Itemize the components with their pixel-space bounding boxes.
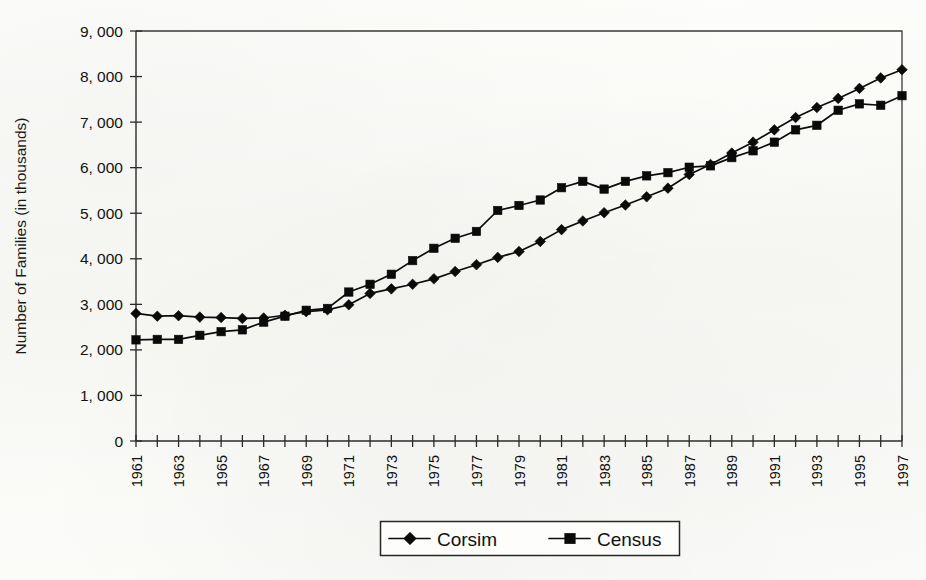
series-line-census (136, 96, 902, 340)
data-point-diamond (875, 73, 886, 84)
chart-screenshot: 01, 0002, 0003, 0004, 0005, 0006, 0007, … (0, 0, 926, 580)
data-point-square (451, 234, 459, 242)
data-point-square (749, 147, 757, 155)
data-point-square (494, 206, 502, 214)
data-point-diamond (578, 216, 589, 227)
x-tick-label: 1963 (171, 455, 187, 487)
data-point-square (621, 177, 629, 185)
data-point-square (898, 91, 906, 99)
x-tick-label: 1975 (426, 455, 442, 487)
data-point-diamond (216, 312, 227, 323)
data-point-diamond (790, 112, 801, 123)
data-point-square (685, 163, 693, 171)
x-tick-label: 1977 (469, 455, 485, 487)
data-point-diamond (833, 93, 844, 104)
data-point-diamond (492, 252, 503, 263)
data-point-diamond (620, 200, 631, 211)
data-point-square (855, 100, 863, 108)
data-point-square (345, 288, 353, 296)
data-point-diamond (769, 125, 780, 136)
x-tick-label: 1989 (724, 455, 740, 487)
data-point-square (877, 101, 885, 109)
legend-label-census: Census (597, 529, 661, 550)
y-tick-label: 0 (114, 433, 123, 450)
y-tick-label: 9, 000 (80, 23, 123, 40)
data-point-square (536, 196, 544, 204)
data-point-square (196, 331, 204, 339)
y-tick-label: 1, 000 (80, 387, 123, 404)
data-point-square (408, 256, 416, 264)
series-census (132, 91, 906, 344)
data-point-square (565, 533, 575, 543)
data-point-diamond (514, 246, 525, 257)
data-point-diamond (131, 308, 142, 319)
data-series-group (131, 64, 908, 344)
data-point-diamond (812, 102, 823, 113)
x-tick-label: 1997 (895, 455, 911, 487)
data-point-diamond (365, 288, 376, 299)
data-point-square (387, 270, 395, 278)
data-point-square (600, 185, 608, 193)
data-point-diamond (173, 310, 184, 321)
data-point-square (323, 304, 331, 312)
y-tick-label: 6, 000 (80, 159, 123, 176)
x-tick-label: 1985 (639, 455, 655, 487)
data-point-diamond (535, 236, 546, 247)
data-point-diamond (152, 311, 163, 322)
data-point-square (791, 126, 799, 134)
data-point-diamond (599, 207, 610, 218)
data-point-square (813, 121, 821, 129)
chart-legend: CorsimCensus (381, 522, 680, 556)
data-point-square (153, 335, 161, 343)
y-axis: 01, 0002, 0003, 0004, 0005, 0006, 0007, … (80, 23, 142, 450)
data-point-diamond (237, 313, 248, 324)
data-point-diamond (471, 259, 482, 270)
x-tick-label: 1993 (809, 455, 825, 487)
data-point-square (430, 244, 438, 252)
data-point-diamond (407, 279, 418, 290)
data-point-diamond (748, 137, 759, 148)
data-point-square (217, 327, 225, 335)
frame-top-right (136, 31, 902, 441)
y-tick-label: 8, 000 (80, 68, 123, 85)
x-axis: 1961196319651967196919711973197519771979… (129, 435, 911, 487)
x-tick-label: 1965 (214, 455, 230, 487)
y-tick-label: 7, 000 (80, 114, 123, 131)
data-point-square (174, 335, 182, 343)
data-point-square (770, 138, 778, 146)
families-line-chart: 01, 0002, 0003, 0004, 0005, 0006, 0007, … (0, 0, 926, 580)
data-point-square (238, 326, 246, 334)
plot-frame (136, 31, 902, 441)
data-point-square (834, 106, 842, 114)
y-tick-label: 2, 000 (80, 341, 123, 358)
y-axis-title: Number of Families (in thousands) (12, 118, 29, 355)
data-point-square (472, 227, 480, 235)
data-point-square (706, 162, 714, 170)
data-point-square (281, 312, 289, 320)
x-tick-label: 1995 (852, 455, 868, 487)
data-point-diamond (195, 312, 206, 323)
series-corsim (131, 64, 908, 323)
data-point-square (515, 201, 523, 209)
x-tick-label: 1987 (682, 455, 698, 487)
x-tick-label: 1991 (767, 455, 783, 487)
data-point-square (132, 336, 140, 344)
data-point-square (557, 184, 565, 192)
x-tick-label: 1979 (512, 455, 528, 487)
data-point-square (728, 153, 736, 161)
legend-label-corsim: Corsim (437, 529, 497, 550)
data-point-square (642, 172, 650, 180)
data-point-square (302, 306, 310, 314)
data-point-diamond (429, 274, 440, 285)
data-point-diamond (556, 224, 567, 235)
x-tick-label: 1969 (299, 455, 315, 487)
y-tick-label: 3, 000 (80, 296, 123, 313)
series-line-corsim (136, 70, 902, 319)
data-point-diamond (897, 64, 908, 75)
x-tick-label: 1961 (129, 455, 145, 487)
y-tick-label: 4, 000 (80, 250, 123, 267)
data-point-diamond (641, 192, 652, 203)
x-tick-label: 1981 (554, 455, 570, 487)
x-tick-label: 1983 (597, 455, 613, 487)
data-point-square (259, 318, 267, 326)
